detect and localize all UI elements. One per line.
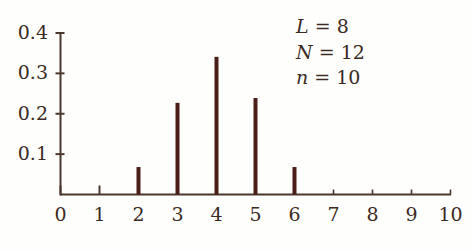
y-axis-tick-label: 0.4 xyxy=(0,23,48,42)
x-axis-tick-label: 3 xyxy=(158,205,198,224)
x-axis-tick-label: 6 xyxy=(275,205,315,224)
annotation-line: N = 12 xyxy=(296,40,365,66)
y-axis-tick-label: 0.1 xyxy=(0,144,48,163)
chart-figure: 0.40.30.20.1 012345678910 L = 8N = 12n =… xyxy=(0,0,474,251)
annotation-value: 8 xyxy=(337,15,349,37)
y-axis-tick-label: 0.2 xyxy=(0,104,48,123)
y-axis-tick-label: 0.3 xyxy=(0,63,48,82)
x-axis-tick-label: 7 xyxy=(314,205,354,224)
parameter-annotation: L = 8N = 12n = 10 xyxy=(296,14,365,91)
annotation-equals: = xyxy=(313,41,341,63)
x-axis-tick-label: 1 xyxy=(80,205,120,224)
x-axis-tick-label: 9 xyxy=(392,205,432,224)
annotation-symbol: N xyxy=(296,41,313,63)
bar xyxy=(215,57,219,195)
annotation-equals: = xyxy=(309,15,337,37)
x-axis-tick-label: 4 xyxy=(197,205,237,224)
bar xyxy=(293,167,297,194)
x-axis-tick-label: 0 xyxy=(41,205,81,224)
annotation-value: 12 xyxy=(341,41,365,63)
annotation-line: L = 8 xyxy=(296,14,365,40)
x-axis-tick-label: 10 xyxy=(431,205,471,224)
bar xyxy=(254,98,258,194)
annotation-line: n = 10 xyxy=(296,65,365,91)
x-axis-tick-label: 8 xyxy=(353,205,393,224)
x-axis-tick-label: 2 xyxy=(119,205,159,224)
bar xyxy=(176,103,180,195)
annotation-symbol: n xyxy=(296,66,308,88)
bar-series xyxy=(137,57,297,195)
bar xyxy=(137,167,141,194)
annotation-equals: = xyxy=(308,66,336,88)
annotation-value: 10 xyxy=(336,66,360,88)
x-axis-tick-label: 5 xyxy=(236,205,276,224)
annotation-symbol: L xyxy=(296,15,309,37)
